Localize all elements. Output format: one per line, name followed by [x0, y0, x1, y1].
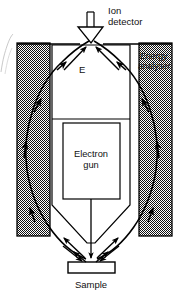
energy-analyser-left-plate [17, 43, 50, 236]
electron-gun-label-line1: Electron [74, 149, 108, 159]
sample-label: Sample [75, 279, 107, 290]
scan-artifact-squiggle-2 [5, 48, 12, 74]
energy-analyser-label-line2: analyser [138, 61, 171, 71]
figure-root: Ion detector Energy analyser E Electron … [0, 0, 183, 300]
sample-holder [68, 262, 115, 273]
energy-analyser-diagram: Ion detector Energy analyser E Electron … [0, 0, 183, 300]
scan-artifact-squiggle [1, 34, 13, 72]
field-label-E: E [79, 64, 85, 75]
energy-analyser-label-line1: Energy [140, 51, 168, 61]
ion-detector-label-line1: Ion [108, 5, 121, 16]
ion-detector-label-line2: detector [108, 16, 142, 27]
energy-analyser-right-plate [139, 43, 172, 236]
ion-detector [78, 12, 103, 43]
electron-gun-label-line2: gun [83, 160, 99, 170]
